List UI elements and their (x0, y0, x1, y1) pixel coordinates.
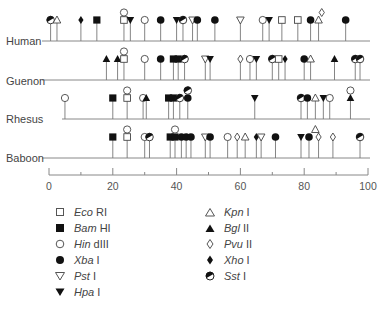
restriction-site (124, 95, 131, 119)
axis-tick-label: 20 (107, 180, 119, 192)
restriction-site (238, 55, 243, 80)
restriction-site (282, 55, 287, 80)
axis-tick-label: 40 (171, 180, 183, 192)
restriction-site (315, 16, 323, 41)
legend-item-hin-diii: HindIII (54, 236, 111, 252)
legend-item-eco-ri: EcoRI (54, 204, 111, 220)
restriction-site (237, 17, 245, 41)
restriction-site (194, 16, 202, 41)
axis-tick-label: 60 (235, 180, 247, 192)
restriction-site (171, 126, 178, 133)
filled-up-triangle-icon (204, 222, 216, 234)
restriction-site (259, 16, 266, 41)
legend-column-1: EcoRI BamHI HindIII XbaI PstI HpaI (54, 204, 111, 300)
restriction-site (93, 16, 100, 41)
restriction-site (295, 17, 302, 41)
row-label-baboon: Baboon (6, 152, 44, 164)
restriction-site (267, 54, 276, 80)
restriction-site (175, 93, 184, 119)
restriction-site (121, 56, 128, 80)
axis-tick-label: 0 (46, 180, 52, 192)
restriction-site (312, 126, 320, 133)
open-up-triangle-icon (204, 206, 216, 218)
restriction-site (211, 16, 219, 41)
legend-item-bgl-ii: BglII (204, 220, 252, 236)
legend-item-hpa-i: HpaI (54, 284, 111, 300)
restriction-site (312, 94, 320, 119)
restriction-site (347, 94, 355, 119)
open-down-triangle-icon (54, 270, 66, 282)
open-diamond-icon (204, 238, 216, 250)
filled-circle-icon (54, 254, 66, 266)
map-rows (42, 9, 370, 159)
restriction-site (45, 15, 54, 41)
restriction-site (61, 94, 68, 119)
restriction-site (235, 133, 240, 158)
open-square-icon (54, 206, 66, 218)
restriction-site (342, 16, 350, 41)
restriction-site (326, 94, 333, 119)
restriction-site (224, 133, 231, 158)
restriction-site (157, 16, 165, 41)
restriction-site (307, 16, 315, 41)
restriction-site (331, 55, 339, 80)
restriction-site (179, 54, 188, 80)
restriction-site (178, 15, 187, 41)
restriction-site (109, 94, 116, 119)
legend-item-sst-i: SstI (204, 268, 252, 284)
restriction-site (120, 9, 127, 16)
restriction-site (171, 133, 178, 158)
restriction-site (241, 133, 249, 158)
legend-item-xho-i: XhoI (204, 252, 252, 268)
restriction-site (109, 133, 116, 158)
map-row-baboon (42, 126, 370, 159)
restriction-site (355, 132, 364, 158)
axis-tick-label: 100 (359, 180, 377, 192)
restriction-site (297, 134, 305, 158)
map-row-human (42, 9, 370, 42)
restriction-site (251, 95, 259, 119)
legend-item-pst-i: PstI (54, 268, 111, 284)
restriction-site (246, 55, 253, 80)
restriction-site (347, 87, 354, 94)
restriction-site (141, 55, 148, 80)
restriction-site (103, 55, 111, 80)
restriction-site (144, 132, 153, 158)
restriction-site (316, 133, 321, 158)
filled-down-triangle-icon (54, 286, 66, 298)
legend-item-bam-hi: BamHI (54, 220, 111, 236)
legend-item-kpn-i: KpnI (204, 204, 252, 220)
legend-item-pvu-ii: PvuII (204, 236, 252, 252)
scale-axis: 020406080100 (46, 168, 377, 192)
half-filled-circle-icon (204, 270, 216, 282)
restriction-site (304, 94, 312, 119)
restriction-site (121, 17, 128, 41)
restriction-site (330, 133, 335, 158)
restriction-site (254, 133, 259, 158)
restriction-site (296, 93, 305, 119)
restriction-site (279, 17, 286, 41)
restriction-site (275, 56, 282, 80)
restriction-site (120, 48, 127, 55)
restriction-site (300, 55, 308, 80)
row-label-guenon: Guenon (6, 75, 45, 87)
row-label-human: Human (6, 35, 41, 47)
restriction-site (305, 133, 313, 158)
restriction-site (319, 9, 324, 17)
map-row-guenon (42, 48, 370, 80)
filled-square-icon (54, 222, 66, 234)
restriction-site (355, 54, 364, 80)
row-label-rhesus: Rhesus (6, 113, 43, 125)
restriction-site (183, 85, 192, 94)
restriction-site (124, 87, 131, 94)
restriction-site (157, 55, 165, 80)
restriction-site (124, 126, 131, 133)
filled-diamond-icon (204, 254, 216, 266)
restriction-site (272, 133, 280, 158)
restriction-site (206, 133, 214, 158)
restriction-site (184, 94, 192, 119)
restriction-site (187, 133, 195, 158)
restriction-site (141, 16, 148, 41)
legend-item-xba-i: XbaI (54, 252, 111, 268)
open-circle-icon (54, 238, 66, 250)
